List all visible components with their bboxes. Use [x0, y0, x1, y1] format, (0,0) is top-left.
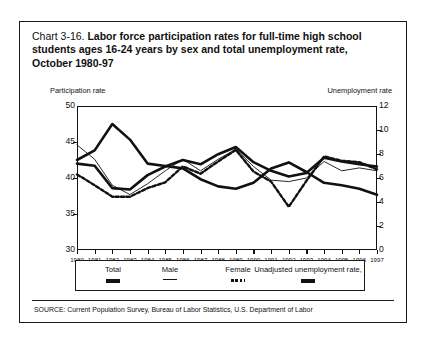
x-tick-mark [112, 250, 113, 254]
y-tick-label-right: 10 [379, 124, 409, 134]
y-tick-mark-right [377, 226, 381, 227]
x-tick-mark [183, 250, 184, 254]
x-tick-mark [130, 250, 131, 254]
plot-frame [77, 106, 377, 250]
y-tick-label-right: 2 [379, 220, 409, 230]
x-tick-mark [77, 250, 78, 254]
legend-swatch [301, 279, 315, 283]
y-tick-label-left: 45 [45, 136, 75, 146]
x-tick-mark [148, 250, 149, 254]
x-tick-mark [306, 250, 307, 254]
y-tick-label-right: 6 [379, 172, 409, 182]
y-tick-mark-right [377, 154, 381, 155]
legend-label: Unadjusted unemployment rate, [254, 265, 362, 274]
y-tick-label-left: 40 [45, 172, 75, 182]
x-tick-mark [253, 250, 254, 254]
y-tick-mark-right [377, 178, 381, 179]
left-axis-caption: Participation rate [50, 86, 105, 95]
legend-swatch [106, 279, 120, 283]
x-tick-mark [359, 250, 360, 254]
y-tick-mark-right [377, 130, 381, 131]
legend-label: Female [225, 265, 250, 274]
legend-swatch [231, 279, 245, 282]
x-tick-mark [165, 250, 166, 254]
y-tick-mark-left [73, 214, 77, 215]
legend-label: Total [105, 265, 121, 274]
y-tick-label-left: 30 [45, 244, 75, 254]
y-tick-label-left: 35 [45, 208, 75, 218]
legend-swatch [163, 279, 177, 280]
x-tick-mark [289, 250, 290, 254]
y-tick-mark-left [73, 178, 77, 179]
x-tick-mark [271, 250, 272, 254]
y-tick-label-right: 8 [379, 148, 409, 158]
source-note: SOURCE: Current Population Survey, Burea… [34, 306, 313, 313]
right-axis-caption: Unemployment rate [328, 86, 393, 95]
y-tick-label-left: 50 [45, 100, 75, 110]
y-tick-label-right: 0 [379, 244, 409, 254]
x-tick-mark [236, 250, 237, 254]
legend-label: Male [162, 265, 178, 274]
x-tick-mark [201, 250, 202, 254]
plot-area: 3035404550 024681012 1980198119821983198… [77, 106, 377, 250]
y-tick-mark-right [377, 202, 381, 203]
x-tick-mark [342, 250, 343, 254]
source-divider [32, 300, 394, 301]
chart-legend: TotalMaleFemaleUnadjusted unemployment r… [75, 260, 365, 291]
x-tick-mark [377, 250, 378, 254]
x-tick-mark [324, 250, 325, 254]
x-tick-label: 1997 [370, 256, 384, 263]
y-tick-label-right: 4 [379, 196, 409, 206]
x-tick-mark [218, 250, 219, 254]
chart-title: Chart 3-16. Labor force participation ra… [32, 30, 382, 70]
chart-figure: Chart 3-16. Labor force participation ra… [19, 21, 407, 323]
x-tick-mark [95, 250, 96, 254]
chart-number: Chart 3-16. [32, 30, 85, 42]
y-tick-label-right: 12 [379, 100, 409, 110]
y-tick-mark-left [73, 142, 77, 143]
